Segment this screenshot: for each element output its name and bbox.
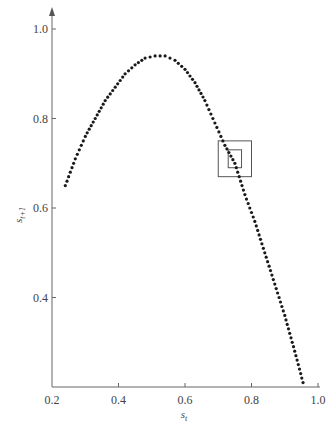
data-point <box>82 139 85 142</box>
data-point <box>242 189 245 192</box>
data-point <box>297 363 300 366</box>
return-map-chart: 0.20.40.60.81.0 0.40.60.81.0 st st+1 <box>0 0 335 434</box>
data-point <box>164 54 167 57</box>
data-point <box>219 135 222 138</box>
data-point <box>119 79 122 82</box>
data-point <box>88 128 91 131</box>
data-point <box>278 296 281 299</box>
data-point <box>255 224 258 227</box>
data-point <box>269 269 272 272</box>
data-point <box>217 130 220 133</box>
data-point <box>124 72 127 75</box>
data-point <box>130 66 133 69</box>
data-point <box>299 372 302 375</box>
data-point <box>203 99 206 102</box>
cobweb-boxes <box>218 141 251 177</box>
data-point <box>298 368 301 371</box>
data-point <box>197 88 200 91</box>
data-point <box>275 287 278 290</box>
data-point <box>76 153 79 156</box>
data-point <box>80 144 83 147</box>
data-point <box>70 166 73 169</box>
data-point <box>238 175 241 178</box>
data-point <box>102 103 105 106</box>
data-point <box>293 350 296 353</box>
y-tick-label: 0.4 <box>33 291 48 305</box>
outer-box <box>218 141 251 177</box>
data-point <box>296 359 299 362</box>
data-point <box>149 55 152 58</box>
data-point <box>250 211 253 214</box>
data-point <box>186 71 189 74</box>
data-point <box>195 85 198 88</box>
y-tick-label: 1.0 <box>33 22 48 36</box>
data-point <box>273 283 276 286</box>
data-point <box>286 323 289 326</box>
data-point <box>191 78 194 81</box>
data-point <box>92 121 95 124</box>
data-point <box>173 59 176 62</box>
data-point <box>121 76 124 79</box>
data-point <box>280 305 283 308</box>
y-tick-label: 0.6 <box>33 201 48 215</box>
data-point <box>239 180 242 183</box>
data-point <box>266 260 269 263</box>
data-point <box>78 148 81 151</box>
data-point <box>253 220 256 223</box>
data-point <box>270 274 273 277</box>
data-point <box>90 124 93 127</box>
data-point <box>188 74 191 77</box>
data-point <box>291 341 294 344</box>
data-point <box>225 147 228 150</box>
data-point <box>289 336 292 339</box>
x-tick-label: 0.2 <box>45 393 60 407</box>
data-point <box>109 92 112 95</box>
data-point <box>154 54 157 57</box>
data-point <box>240 184 243 187</box>
data-point <box>106 96 109 99</box>
data-point <box>245 198 248 201</box>
data-point <box>104 99 107 102</box>
data-point <box>209 112 212 115</box>
data-point <box>201 95 204 98</box>
data-point <box>74 157 77 160</box>
data-point <box>223 144 226 147</box>
data-point <box>258 233 261 236</box>
data-point <box>86 131 89 134</box>
data-point <box>177 62 180 65</box>
data-point <box>235 166 238 169</box>
data-point <box>180 65 183 68</box>
data-point <box>243 193 246 196</box>
data-point <box>116 82 119 85</box>
data-point <box>231 158 234 161</box>
y-tick-label: 0.8 <box>33 112 48 126</box>
axes: 0.20.40.60.81.0 0.40.60.81.0 <box>33 7 326 407</box>
data-point <box>263 251 266 254</box>
data-point <box>168 57 171 60</box>
data-point <box>301 381 304 384</box>
x-axis-label: st <box>181 408 188 423</box>
data-point <box>98 110 101 113</box>
x-tick-label: 1.0 <box>311 393 326 407</box>
data-point <box>140 59 143 62</box>
data-point <box>265 256 268 259</box>
data-point <box>292 345 295 348</box>
x-tick-label: 0.6 <box>178 393 193 407</box>
data-point <box>256 229 259 232</box>
data-point <box>248 206 251 209</box>
data-point <box>94 117 97 120</box>
data-point <box>205 104 208 107</box>
data-point <box>215 126 218 129</box>
data-point <box>272 278 275 281</box>
data-point <box>283 314 286 317</box>
data-point <box>221 139 224 142</box>
data-point <box>227 151 230 154</box>
data-point <box>183 68 186 71</box>
data-point <box>134 63 137 66</box>
x-tick-label: 0.8 <box>244 393 259 407</box>
data-points <box>64 54 305 384</box>
data-point <box>288 332 291 335</box>
y-ticks: 0.40.60.81.0 <box>33 22 56 305</box>
data-point <box>259 238 262 241</box>
data-point <box>67 175 70 178</box>
